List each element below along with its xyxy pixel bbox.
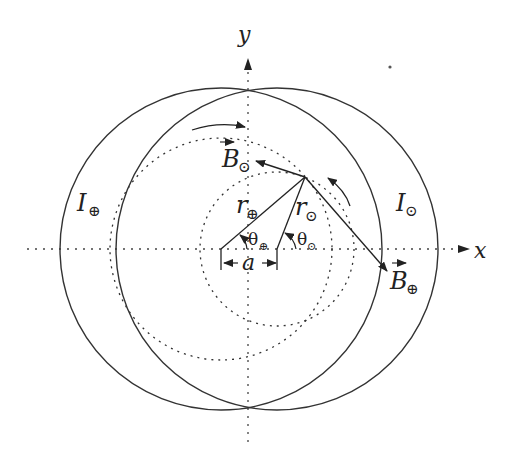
separation-label: a [242, 250, 255, 275]
field-out-label: B [221, 145, 240, 173]
current-in-label: I [76, 189, 87, 217]
field-in-sub: ⊕ [406, 280, 419, 298]
angle-out-sub: ⊙ [307, 240, 316, 253]
angle-arc-in [240, 235, 247, 249]
curved-arrow-right [328, 178, 350, 206]
x-axis-label: x [474, 238, 487, 263]
radius-line-in [221, 177, 305, 249]
y-axis-label: y [237, 22, 251, 47]
field-out-sub: ⊙ [238, 158, 251, 176]
field-in-label: B [389, 267, 408, 295]
radius-in-sub: ⊕ [246, 205, 259, 223]
diagram-canvas: x y I ⊕ I ⊙ B ⊙ B ⊕ r ⊕ r ⊙ θ ⊕ θ ⊙ a [0, 0, 515, 463]
radius-out-sub: ⊙ [305, 207, 318, 225]
current-in-sub: ⊕ [88, 202, 101, 220]
angle-out-label: θ [297, 229, 307, 249]
angle-in-sub: ⊕ [259, 240, 268, 253]
angle-in-label: θ [248, 229, 258, 249]
stray-dot [388, 65, 391, 68]
field-vector-out [256, 161, 305, 177]
angle-arc-out [285, 233, 296, 249]
curved-arrow-top [192, 125, 245, 130]
current-out-sub: ⊙ [405, 202, 418, 220]
